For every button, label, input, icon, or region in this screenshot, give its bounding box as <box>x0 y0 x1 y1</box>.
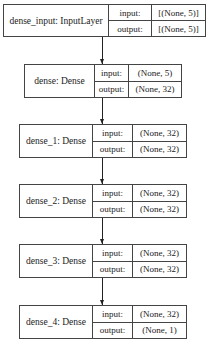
port-value: (None, 32) <box>133 202 186 218</box>
node-dense-1: dense_1: Dense input: (None, 32) output:… <box>19 124 187 158</box>
port-row-output: output: (None, 32) <box>93 261 186 278</box>
port-row-input: input: [(None, 5)] <box>109 5 205 20</box>
port-value: (None, 32) <box>133 306 186 322</box>
node-ports: input: [(None, 5)] output: [(None, 5)] <box>109 5 205 36</box>
port-name: output: <box>93 202 133 218</box>
node-dense-3: dense_3: Dense input: (None, 32) output:… <box>19 244 187 278</box>
node-label: dense: Dense <box>25 65 95 97</box>
port-row-output: output: [(None, 5)] <box>109 20 205 36</box>
port-value: (None, 32) <box>133 245 186 261</box>
edge-arrow <box>102 158 103 184</box>
port-name: input: <box>93 185 133 201</box>
node-ports: input: (None, 32) output: (None, 32) <box>93 185 186 217</box>
port-name: output: <box>93 262 133 278</box>
edge-arrow <box>102 218 103 244</box>
port-value: [(None, 5)] <box>152 21 205 36</box>
port-name: output: <box>93 142 133 158</box>
port-value: (None, 32) <box>133 185 186 201</box>
port-row-input: input: (None, 32) <box>93 185 186 201</box>
port-row-input: input: (None, 32) <box>93 245 186 261</box>
port-value: (None, 32) <box>133 262 186 278</box>
port-value: (None, 5) <box>129 65 181 81</box>
edge-arrow <box>102 98 103 124</box>
port-row-output: output: (None, 1) <box>93 322 186 339</box>
edge-arrow <box>102 278 103 305</box>
port-row-input: input: (None, 32) <box>93 125 186 141</box>
port-name: input: <box>93 306 133 322</box>
node-ports: input: (None, 5) output: (None, 32) <box>95 65 181 97</box>
node-label: dense_3: Dense <box>20 245 93 277</box>
port-name: output: <box>93 323 133 339</box>
node-label: dense_1: Dense <box>20 125 93 157</box>
node-dense-4: dense_4: Dense input: (None, 32) output:… <box>19 305 187 339</box>
node-ports: input: (None, 32) output: (None, 1) <box>93 306 186 338</box>
node-label: dense_input: InputLayer <box>4 5 109 36</box>
port-value: (None, 32) <box>129 82 181 98</box>
node-label: dense_4: Dense <box>20 306 93 338</box>
port-name: output: <box>109 21 152 36</box>
node-label: dense_2: Dense <box>20 185 93 217</box>
port-value: (None, 32) <box>133 125 186 141</box>
port-name: input: <box>95 65 129 81</box>
port-value: (None, 1) <box>133 323 186 339</box>
node-dense: dense: Dense input: (None, 5) output: (N… <box>24 64 182 98</box>
node-ports: input: (None, 32) output: (None, 32) <box>93 125 186 157</box>
port-row-input: input: (None, 32) <box>93 306 186 322</box>
node-ports: input: (None, 32) output: (None, 32) <box>93 245 186 277</box>
port-value: [(None, 5)] <box>152 5 205 20</box>
port-name: input: <box>93 125 133 141</box>
edge-arrow <box>102 37 103 64</box>
port-name: input: <box>109 5 152 20</box>
port-row-output: output: (None, 32) <box>95 81 181 98</box>
port-value: (None, 32) <box>133 142 186 158</box>
port-name: input: <box>93 245 133 261</box>
port-row-input: input: (None, 5) <box>95 65 181 81</box>
node-dense-input: dense_input: InputLayer input: [(None, 5… <box>3 4 206 37</box>
port-row-output: output: (None, 32) <box>93 201 186 218</box>
port-row-output: output: (None, 32) <box>93 141 186 158</box>
port-name: output: <box>95 82 129 98</box>
node-dense-2: dense_2: Dense input: (None, 32) output:… <box>19 184 187 218</box>
